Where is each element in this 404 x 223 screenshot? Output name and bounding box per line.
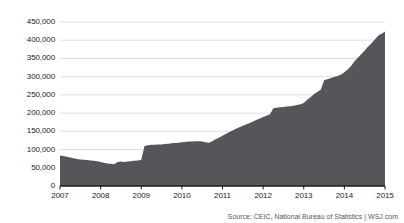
y-axis-tick-label: 250,000 [0,90,55,99]
x-axis-tick-label: 2010 [164,191,200,200]
y-axis-tick-label: 450,000 [0,17,55,26]
x-axis-tick-label: 2013 [286,191,322,200]
x-axis-tick-label: 2015 [367,191,403,200]
area-fill [60,31,385,186]
area-chart [0,0,404,223]
y-axis-tick-label: 350,000 [0,53,55,62]
x-axis-tick-label: 2014 [326,191,362,200]
y-axis-tick-label: 100,000 [0,145,55,154]
y-axis-tick-label: 200,000 [0,108,55,117]
x-axis-tick-label: 2012 [245,191,281,200]
area-series-group [60,31,385,186]
chart-container: 050,000100,000150,000200,000250,000300,0… [0,0,404,223]
source-attribution: Source: CEIC, National Bureau of Statist… [228,213,398,220]
y-axis-tick-label: 400,000 [0,35,55,44]
y-axis-tick-label: 50,000 [0,163,55,172]
x-axis-tick-label: 2008 [83,191,119,200]
x-axis-tick-label: 2011 [205,191,241,200]
x-axis-tick-label: 2009 [123,191,159,200]
y-axis-tick-label: 0 [0,181,55,190]
y-axis-tick-label: 300,000 [0,72,55,81]
y-axis-tick-label: 150,000 [0,126,55,135]
x-axis-tick-label: 2007 [42,191,78,200]
